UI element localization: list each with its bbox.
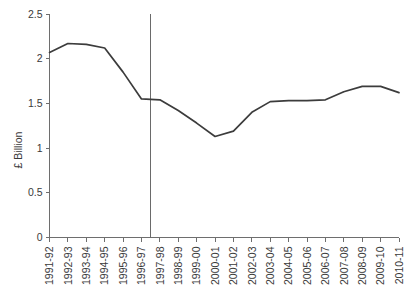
x-tick-label: 1991-92 <box>43 246 55 285</box>
x-tick-label: 1992-93 <box>62 246 74 285</box>
x-tick-label: 1998-99 <box>172 246 184 285</box>
x-tick-label: 2005-06 <box>301 246 313 285</box>
x-tick-label: 2009-10 <box>374 246 386 285</box>
x-tick-label: 1996-97 <box>135 246 147 285</box>
y-tick-label: 0 <box>37 231 43 243</box>
x-tick-label: 2003-04 <box>264 246 276 285</box>
y-tick-label: 2 <box>37 52 43 64</box>
x-tick-label: 1993-94 <box>80 246 92 285</box>
x-tick-label: 2004-05 <box>282 246 294 285</box>
y-axis-title: £ Billion <box>12 131 24 168</box>
series-line--billion <box>50 44 400 137</box>
x-tick-label: 2001-02 <box>227 246 239 285</box>
x-tick-label: 1994-95 <box>98 246 110 285</box>
x-tick-label: 2002-03 <box>246 246 258 285</box>
y-tick-label: 1 <box>37 142 43 154</box>
x-tick-label: 2006-07 <box>319 246 331 285</box>
x-tick-label: 1997-98 <box>154 246 166 285</box>
x-tick-label: 2007-08 <box>338 246 350 285</box>
y-tick-label: 1.5 <box>28 97 43 109</box>
x-tick-label: 2010-11 <box>393 246 405 284</box>
y-tick-label: 0.5 <box>28 186 43 198</box>
x-tick-label: 1995-96 <box>117 246 129 285</box>
line-chart: 00.511.522.5£ Billion1991-921992-931993-… <box>0 0 409 306</box>
chart-canvas: 00.511.522.5£ Billion1991-921992-931993-… <box>0 0 409 306</box>
x-tick-label: 1999-00 <box>190 246 202 285</box>
y-tick-label: 2.5 <box>28 8 43 20</box>
x-tick-label: 2008-09 <box>356 246 368 285</box>
x-tick-label: 2000-01 <box>209 246 221 285</box>
